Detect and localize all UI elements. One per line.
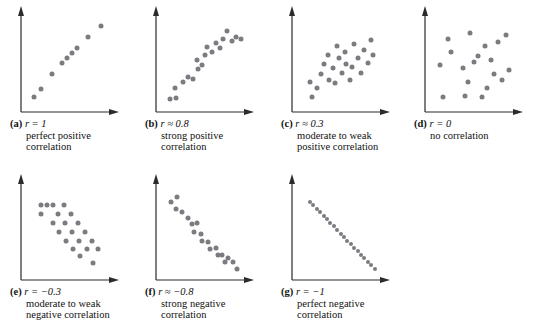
caption-b: (b) r ≈ 0.8 strong positive correlation bbox=[143, 118, 276, 153]
data-point bbox=[449, 50, 454, 55]
data-point bbox=[503, 32, 508, 37]
data-point bbox=[475, 53, 480, 58]
datapoints-b bbox=[143, 4, 255, 117]
panel-label-g: (g) bbox=[281, 286, 293, 297]
datapoints-c bbox=[279, 4, 391, 117]
caption-g-line1: perfect negative bbox=[279, 298, 412, 310]
data-point bbox=[471, 60, 476, 65]
data-point bbox=[91, 261, 96, 266]
data-point bbox=[31, 95, 36, 100]
caption-a-line1: perfect positive bbox=[8, 130, 141, 142]
caption-e-line1: moderate to weak bbox=[8, 298, 141, 310]
data-point bbox=[336, 56, 341, 61]
datapoints-f bbox=[143, 172, 255, 285]
data-point bbox=[194, 58, 199, 63]
data-point bbox=[322, 61, 327, 66]
r-text-g: r = −1 bbox=[296, 286, 325, 297]
correlation-figure: (a) r = 1 perfect positive correlation (… bbox=[0, 0, 546, 336]
r-text-c: r ≈ 0.3 bbox=[295, 118, 323, 129]
data-point bbox=[347, 77, 352, 82]
caption-f-line1: strong negative bbox=[143, 298, 276, 310]
plot-d bbox=[412, 4, 524, 117]
data-point bbox=[369, 38, 374, 43]
data-point bbox=[50, 203, 55, 208]
data-point bbox=[485, 85, 490, 90]
data-point bbox=[59, 60, 64, 65]
caption-d-line1: no correlation bbox=[412, 130, 545, 142]
data-point bbox=[224, 29, 229, 34]
data-point bbox=[496, 39, 501, 44]
data-point bbox=[330, 66, 335, 71]
data-point bbox=[167, 96, 172, 101]
data-point bbox=[185, 215, 190, 220]
data-point bbox=[356, 55, 361, 60]
data-point bbox=[38, 212, 43, 217]
data-point bbox=[98, 23, 103, 28]
data-point bbox=[192, 229, 197, 234]
data-point bbox=[63, 220, 68, 225]
data-point bbox=[62, 203, 67, 208]
data-point bbox=[480, 95, 485, 100]
data-point bbox=[362, 47, 367, 52]
panel-d: (d) r = 0 no correlation bbox=[412, 4, 545, 141]
data-point bbox=[352, 41, 357, 46]
r-text-e: r = −0.3 bbox=[24, 286, 61, 297]
data-point bbox=[213, 40, 218, 45]
data-point bbox=[82, 229, 87, 234]
caption-c-line2: positive correlation bbox=[279, 141, 412, 153]
data-point bbox=[482, 44, 487, 49]
data-point bbox=[70, 51, 75, 56]
plot-c bbox=[279, 4, 391, 117]
plot-e bbox=[8, 172, 120, 285]
data-point bbox=[437, 62, 442, 67]
data-point bbox=[500, 78, 505, 83]
data-point bbox=[190, 76, 195, 81]
data-point bbox=[195, 67, 200, 72]
panel-label-e: (e) bbox=[10, 286, 22, 297]
data-point bbox=[194, 220, 199, 225]
data-point bbox=[440, 95, 445, 100]
data-point bbox=[205, 45, 210, 50]
caption-c-line1: moderate to weak bbox=[279, 130, 412, 142]
data-point bbox=[365, 60, 370, 65]
panel-label-c: (c) bbox=[281, 118, 293, 129]
data-point bbox=[76, 238, 81, 243]
r-text-a: r = 1 bbox=[25, 118, 47, 129]
data-point bbox=[181, 80, 186, 85]
datapoints-a bbox=[8, 4, 120, 117]
r-text-f: r ≈ −0.8 bbox=[158, 286, 193, 297]
data-point bbox=[309, 95, 314, 100]
data-point bbox=[50, 220, 55, 225]
panel-label-a: (a) bbox=[10, 118, 22, 129]
data-point bbox=[210, 50, 215, 55]
data-point bbox=[38, 203, 43, 208]
data-point bbox=[56, 212, 61, 217]
data-point bbox=[49, 72, 54, 77]
panel-label-b: (b) bbox=[145, 118, 158, 129]
data-point bbox=[205, 240, 210, 245]
data-point bbox=[307, 80, 312, 85]
data-point bbox=[234, 266, 239, 271]
panel-c: (c) r ≈ 0.3 moderate to weak positive co… bbox=[279, 4, 412, 153]
caption-b-line2: correlation bbox=[143, 141, 276, 153]
panel-g: (g) r = −1 perfect negative correlation bbox=[279, 172, 412, 321]
panel-a: (a) r = 1 perfect positive correlation bbox=[8, 4, 141, 153]
caption-f-line2: correlation bbox=[143, 309, 276, 321]
data-point bbox=[89, 238, 94, 243]
caption-g: (g) r = −1 perfect negative correlation bbox=[279, 286, 412, 321]
data-point bbox=[217, 45, 222, 50]
data-point bbox=[507, 67, 512, 72]
data-point bbox=[172, 85, 177, 90]
data-point bbox=[325, 52, 330, 57]
data-point bbox=[468, 30, 473, 35]
data-point bbox=[39, 87, 44, 92]
data-point bbox=[373, 267, 377, 271]
datapoints-e bbox=[8, 172, 120, 285]
data-point bbox=[180, 210, 185, 215]
data-point bbox=[446, 37, 451, 42]
data-point bbox=[84, 247, 89, 252]
panel-label-d: (d) bbox=[414, 118, 427, 129]
data-point bbox=[318, 72, 323, 77]
panel-b: (b) r ≈ 0.8 strong positive correlation bbox=[143, 4, 276, 153]
data-point bbox=[314, 86, 319, 91]
